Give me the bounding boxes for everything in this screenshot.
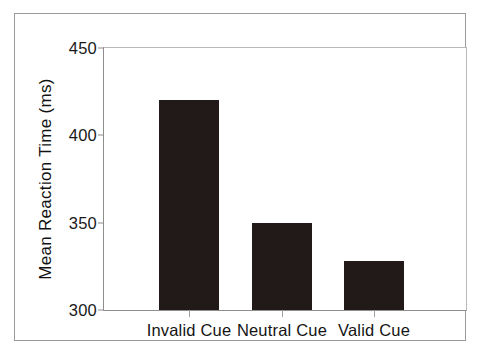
y-axis-title: Mean Reaction Time (ms) [33, 47, 59, 311]
x-tick-mark-valid-cue [374, 310, 375, 317]
y-tick-label-400: 400 [69, 126, 97, 145]
y-tick-label-450: 450 [69, 39, 97, 58]
bar-invalid-cue [159, 100, 219, 310]
y-tick-mark-300 [98, 310, 104, 311]
x-tick-mark-neutral-cue [282, 310, 283, 317]
x-tick-mark-invalid-cue [189, 310, 190, 317]
y-tick-mark-350 [98, 222, 104, 223]
chart-screenshot: 450 400 350 300 Invalid Cue Neutral Cue … [0, 0, 482, 357]
y-tick-label-350: 350 [69, 213, 97, 232]
x-tick-label-valid-cue: Valid Cue [338, 321, 410, 340]
x-tick-label-invalid-cue: Invalid Cue [147, 321, 232, 340]
y-tick-mark-450 [98, 48, 104, 49]
bar-neutral-cue [252, 223, 312, 310]
figure-frame: 450 400 350 300 Invalid Cue Neutral Cue … [14, 13, 466, 341]
x-tick-label-neutral-cue: Neutral Cue [237, 321, 327, 340]
y-tick-mark-400 [98, 135, 104, 136]
y-tick-label-300: 300 [69, 301, 97, 320]
plot-area: 450 400 350 300 Invalid Cue Neutral Cue … [103, 47, 467, 311]
bar-valid-cue [344, 261, 404, 310]
